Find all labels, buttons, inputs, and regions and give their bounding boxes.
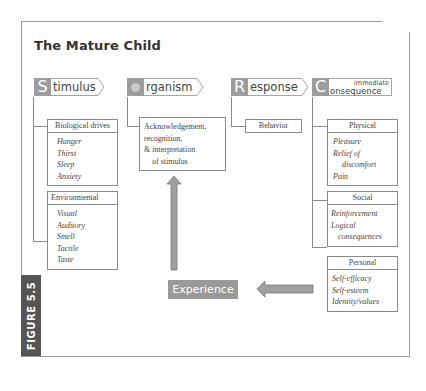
connector-personal [312,247,327,248]
organism-line: of stimulus [144,156,221,168]
header-organism: rganism [127,78,204,96]
connector-environmental [33,241,47,242]
chevron-right-icon [98,78,105,96]
list-item: Taste [57,254,113,266]
experience-box: Experience [168,280,238,299]
box-organism: Acknowledgement, recognition, & interpre… [139,117,226,171]
box-heading: Social [328,192,397,205]
header-word-response: esponse [248,78,302,96]
box-items: Pleasure Relief of discomfort Pain [328,133,397,185]
header-stimulus: S timulus [34,78,105,96]
figure-title: The Mature Child [34,38,161,53]
list-item: Pleasure [333,136,393,148]
list-item: Auditory [57,220,113,232]
list-item: Self-efficacy [332,273,393,285]
list-item: Self-esteem [332,285,393,297]
figure-label: FIGURE 5.5 [21,275,41,356]
box-environmental: Environmental Visual Auditory Smell Tact… [47,191,118,270]
connector-stimulus-vertical [33,97,34,241]
header-letter-c: C [312,78,329,96]
frame-bottom-border [21,356,410,357]
connector-organism-horizontal [127,126,139,127]
list-item: Visual [57,208,113,220]
box-physical: Physical Pleasure Relief of discomfort P… [327,119,398,186]
arrow-left-icon [256,280,314,298]
header-letter-r: R [231,78,248,96]
frame-top-border [21,21,382,22]
box-biological-drives: Biological drives Hunger Thirst Sleep An… [47,119,118,186]
organism-line: recognition, [144,133,221,145]
list-item: Smell [57,231,113,243]
list-item: Thirst [57,148,113,160]
header-consequence: C immediate onsequence [312,78,392,96]
figure-label-text: FIGURE 5.5 [26,281,37,350]
frame-right-border [409,32,410,357]
organism-line: & interpretation [144,144,221,156]
box-items: Visual Auditory Smell Tactile Taste [48,205,117,269]
chevron-right-icon [302,78,309,96]
list-item: Sleep [57,159,113,171]
box-heading: Environmental [48,192,117,205]
box-behavior: Behavior [245,119,302,133]
box-heading: Biological drives [48,120,117,133]
chevron-right-icon [197,78,204,96]
list-item: Pain [333,171,393,183]
box-items: Hunger Thirst Sleep Anxiety [48,133,117,185]
connector-physical [312,126,327,127]
header-letter-o [127,78,144,96]
connector-social [312,200,327,201]
list-item: discomfort [333,159,393,171]
header-word-consequence: onsequence [330,86,382,96]
circle-icon [131,83,140,92]
box-items: Reinforcement Logical consequences [328,205,397,246]
header-word-consequence-box: immediate onsequence [329,78,392,96]
list-item: Identity/values [332,296,393,308]
list-item: Hunger [57,136,113,148]
box-items: Self-efficacy Self-esteem Identity/value… [328,270,397,311]
list-item: Tactile [57,243,113,255]
box-heading: Personal [328,257,397,270]
header-word-stimulus: timulus [51,78,98,96]
header-word-organism: rganism [144,78,197,96]
list-item: Reinforcement [331,208,393,220]
organism-line: Acknowledgement, [144,121,221,133]
connector-organism-vertical [127,97,128,127]
list-item: Relief of [333,148,393,160]
list-item: Anxiety [57,171,113,183]
arrow-up-icon [166,175,182,271]
box-social: Social Reinforcement Logical consequence… [327,191,398,247]
box-heading: Physical [328,120,397,133]
connector-biological [33,126,47,127]
box-personal: Personal Self-efficacy Self-esteem Ident… [327,256,398,312]
connector-response-horizontal [231,126,245,127]
list-item: consequences [331,231,393,243]
connector-response-vertical [231,97,232,127]
header-letter-s: S [34,78,51,96]
list-item: Logical [331,220,393,232]
header-response: R esponse [231,78,309,96]
connector-consequence-vertical [312,97,313,247]
